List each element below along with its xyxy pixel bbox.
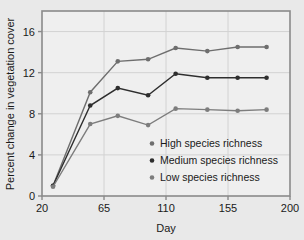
y-axis-title: Percent change in vegetation cover [4,17,16,190]
y-tick-label: 8 [29,108,35,120]
y-tick-label: 16 [23,26,35,38]
data-point [205,107,210,112]
data-point [115,114,120,119]
y-tick-label: 4 [29,149,35,161]
data-point [173,106,178,111]
legend-label: High species richness [160,137,262,149]
chart-legend: High species richnessMedium species rich… [150,137,278,183]
data-point [88,90,93,95]
x-axis-title: Day [156,222,176,234]
data-point [146,93,151,98]
data-point [205,76,210,81]
legend-marker-icon [150,141,155,146]
x-tick-label: 110 [157,202,175,214]
data-point [264,45,269,50]
data-point [205,49,210,54]
x-tick-label: 200 [281,202,299,214]
data-point [235,45,240,50]
data-point [264,76,269,81]
legend-label: Medium species richness [160,154,278,166]
data-point [146,57,151,62]
legend-label: Low species richness [160,171,260,183]
y-tick-label: 0 [29,190,35,202]
data-point [173,71,178,76]
x-tick-label: 65 [98,202,110,214]
data-point [235,76,240,81]
x-tick-label: 20 [36,202,48,214]
data-point [115,59,120,64]
x-tick-label: 155 [219,202,237,214]
data-point [173,46,178,51]
data-point [146,123,151,128]
data-point [88,122,93,127]
data-point [88,103,93,108]
data-point [235,108,240,113]
data-point [264,107,269,112]
line-chart: 2065110155200 0481216 High species richn… [0,0,304,240]
data-point [51,184,56,189]
data-point [115,86,120,91]
legend-marker-icon [150,175,155,180]
legend-marker-icon [150,158,155,163]
chart-figure: 2065110155200 0481216 High species richn… [0,0,304,240]
y-tick-label: 12 [23,67,35,79]
